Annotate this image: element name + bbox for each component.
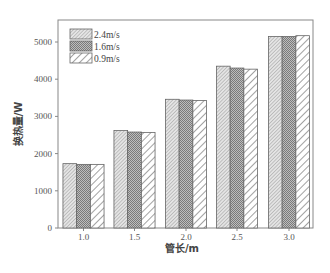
x-tick-label: 1.5: [129, 232, 141, 242]
bars: [63, 36, 310, 228]
legend: 2.4m/s1.6m/s0.9m/s: [70, 29, 120, 64]
y-tick-label: 3000: [34, 111, 53, 121]
legend-swatch: [70, 29, 92, 39]
bar-2.4m/s-2.0: [165, 99, 179, 228]
bar-chart: 010002000300040005000 1.01.52.02.53.0 2.…: [0, 0, 330, 273]
bar-0.9m/s-3.0: [296, 36, 310, 228]
bar-0.9m/s-1.5: [141, 132, 155, 228]
bar-group-1.5: [114, 131, 155, 228]
x-tick-label: 3.0: [283, 232, 295, 242]
x-axis-label: 管长/m: [165, 242, 199, 254]
bar-1.6m/s-3.0: [282, 36, 296, 228]
bar-0.9m/s-2.0: [193, 100, 207, 228]
bar-2.4m/s-1.0: [63, 164, 77, 228]
x-tick-label: 2.5: [231, 232, 243, 242]
y-tick-label: 0: [48, 223, 53, 233]
bar-group-1.0: [63, 164, 104, 228]
x-axis: 1.01.52.02.53.0: [78, 228, 295, 242]
bar-group-2.0: [165, 99, 206, 228]
bar-1.6m/s-2.0: [179, 100, 193, 228]
legend-item: 1.6m/s: [70, 41, 120, 52]
y-tick-label: 5000: [34, 37, 53, 47]
legend-item: 2.4m/s: [70, 29, 120, 40]
y-tick-label: 1000: [34, 186, 53, 196]
bar-1.6m/s-1.0: [77, 164, 91, 228]
bar-0.9m/s-2.5: [244, 69, 258, 228]
legend-swatch: [70, 53, 92, 63]
legend-label: 1.6m/s: [94, 42, 120, 52]
legend-label: 0.9m/s: [94, 54, 120, 64]
bar-1.6m/s-1.5: [128, 132, 142, 228]
bar-group-2.5: [216, 66, 257, 228]
bar-2.4m/s-3.0: [268, 36, 282, 228]
bar-2.4m/s-1.5: [114, 131, 128, 228]
bar-group-3.0: [268, 36, 309, 228]
bar-2.4m/s-2.5: [216, 66, 230, 228]
y-tick-label: 2000: [34, 149, 53, 159]
x-tick-label: 1.0: [78, 232, 90, 242]
x-tick-label: 2.0: [180, 232, 192, 242]
legend-item: 0.9m/s: [70, 53, 120, 64]
bar-0.9m/s-1.0: [90, 164, 104, 228]
legend-swatch: [70, 41, 92, 51]
y-tick-label: 4000: [34, 74, 53, 84]
y-axis: 010002000300040005000: [34, 37, 58, 233]
bar-1.6m/s-2.5: [230, 68, 244, 228]
y-axis-label: 换热量/W: [12, 102, 24, 147]
legend-label: 2.4m/s: [94, 30, 120, 40]
